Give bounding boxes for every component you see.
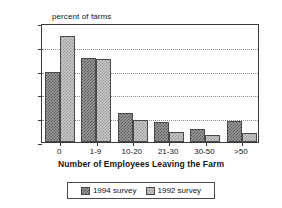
legend-label-1992: 1992 survey [158, 186, 202, 195]
bar-group [224, 25, 260, 142]
x-axis-tick [169, 142, 170, 146]
x-axis-tick-label: 10-20 [122, 147, 142, 156]
x-axis-tick-label: 21-30 [158, 147, 178, 156]
bar-1994-survey-10-20 [118, 113, 133, 142]
bar-1994-survey-21-30 [154, 122, 169, 142]
bar-group [78, 25, 114, 142]
legend-item-1994: 1994 survey [81, 186, 137, 195]
bar-group [115, 25, 151, 142]
bar-1994-survey->50 [227, 121, 242, 142]
bar-1994-survey-30-50 [190, 129, 205, 142]
x-axis-tick [242, 142, 243, 146]
bar-1994-survey-0 [45, 72, 60, 142]
bar-group [151, 25, 187, 142]
x-axis-tick-label: 0 [57, 147, 61, 156]
bar-1992-survey-0 [60, 36, 75, 142]
bar-1992-survey-10-20 [133, 120, 148, 142]
x-axis-tick [97, 142, 98, 146]
y-axis-title: percent of farms [52, 12, 111, 21]
legend-item-1992: 1992 survey [146, 186, 202, 195]
x-axis-tick-label: 1-9 [90, 147, 102, 156]
x-axis-tick-label: 30-50 [194, 147, 214, 156]
bar-1992-survey-21-30 [169, 132, 184, 142]
x-axis-title: Number of Employees Leaving the Farm [0, 159, 282, 169]
x-axis-tick [133, 142, 134, 146]
bar-chart-figure: percent of farms 01020304050 01-910-2021… [0, 0, 282, 208]
plot-area: 01020304050 [41, 24, 259, 143]
bar-1992-survey-1-9 [96, 59, 111, 142]
y-axis-tick [38, 144, 42, 145]
bar-1992-survey->50 [242, 133, 257, 142]
chart-legend: 1994 survey 1992 survey [67, 182, 215, 199]
dark-hatch-swatch-icon [81, 187, 90, 195]
x-axis-tick-label: >50 [234, 147, 248, 156]
bar-group [187, 25, 223, 142]
bar-1992-survey-30-50 [205, 135, 220, 142]
bar-group [42, 25, 78, 142]
bar-1994-survey-1-9 [81, 58, 96, 142]
light-hatch-swatch-icon [146, 187, 155, 195]
legend-label-1994: 1994 survey [93, 186, 137, 195]
x-axis-tick [206, 142, 207, 146]
x-axis-tick [60, 142, 61, 146]
